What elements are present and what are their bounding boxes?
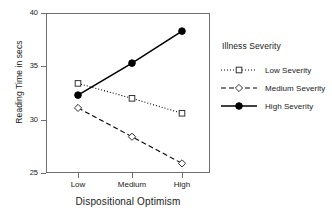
marker-filled-circle [236, 103, 243, 110]
x-axis-title: Dispositional Optimism [46, 196, 210, 207]
y-tick-label: 40 [18, 9, 38, 17]
legend-entry: Medium Severity [219, 79, 329, 97]
y-tick-label: 30 [18, 116, 38, 124]
figure: Dispositional Optimism Reading Time in s… [0, 0, 332, 218]
legend: Illness Severity Low SeverityMedium Seve… [219, 41, 329, 115]
x-tick-mark [78, 173, 79, 178]
legend-label: Low Severity [265, 66, 311, 75]
legend-entry: Low Severity [219, 61, 329, 79]
y-axis-title: Reading Time in secs [14, 22, 24, 142]
x-tick-label: High [152, 180, 212, 189]
legend-entries: Low SeverityMedium SeverityHigh Severity [219, 61, 329, 115]
marker-open-square [236, 67, 242, 73]
y-tick-label: 25 [18, 169, 38, 177]
y-tick-label: 35 [18, 62, 38, 70]
legend-marker-open-square [219, 63, 259, 77]
legend-marker-open-diamond [219, 81, 259, 95]
legend-marker-filled-circle [219, 99, 259, 113]
legend-label: Medium Severity [265, 84, 325, 93]
x-tick-label: Low [48, 180, 108, 189]
plot-area [46, 13, 210, 173]
marker-open-diamond [235, 84, 242, 91]
legend-label: High Severity [265, 102, 313, 111]
legend-title: Illness Severity [222, 41, 329, 51]
y-tick-mark [41, 173, 46, 174]
x-tick-mark [182, 173, 183, 178]
x-tick-mark [132, 173, 133, 178]
legend-entry: High Severity [219, 97, 329, 115]
